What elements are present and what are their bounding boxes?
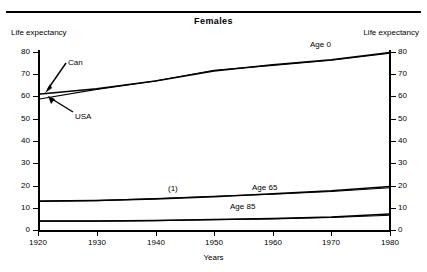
x-label-1980: 1980 — [373, 238, 407, 247]
usa-arrow-head — [48, 96, 55, 104]
x-tick-1950 — [214, 231, 215, 236]
y-tick-right-60 — [390, 96, 396, 97]
y-tick-left-50 — [33, 119, 39, 120]
y-label-left-70: 70 — [12, 69, 30, 78]
series-label-age65: Age 65 — [252, 183, 277, 192]
y-tick-left-40 — [33, 141, 39, 142]
series-line-age-85-can — [38, 214, 390, 221]
series-line-age-0-can — [38, 52, 390, 94]
y-label-left-20: 20 — [12, 181, 30, 190]
chart-figure: Females Life expectancy Life expectancy … — [0, 0, 427, 272]
x-label-1930: 1930 — [80, 238, 114, 247]
y-tick-right-50 — [390, 119, 396, 120]
x-label-1940: 1940 — [139, 238, 173, 247]
x-tick-1940 — [156, 231, 157, 236]
y-tick-right-30 — [390, 163, 396, 164]
y-tick-left-60 — [33, 96, 39, 97]
series-label-age85: Age 85 — [230, 202, 255, 211]
y-tick-left-30 — [33, 163, 39, 164]
y-label-left-50: 50 — [12, 114, 30, 123]
y-tick-right-10 — [390, 208, 396, 209]
y-label-right-70: 70 — [398, 69, 418, 78]
y-label-left-60: 60 — [12, 91, 30, 100]
y-label-right-80: 80 — [398, 47, 418, 56]
footnote-marker: (1) — [168, 184, 178, 193]
series-layer — [38, 52, 390, 221]
x-tick-1970 — [331, 231, 332, 236]
y-label-left-0: 0 — [12, 225, 30, 234]
y-label-right-60: 60 — [398, 91, 418, 100]
y-label-right-50: 50 — [398, 114, 418, 123]
series-label-can: Can — [68, 58, 83, 67]
x-label-1920: 1920 — [21, 238, 55, 247]
series-label-age0: Age 0 — [310, 40, 331, 49]
y-tick-left-10 — [33, 208, 39, 209]
series-label-usa: USA — [75, 112, 91, 121]
x-axis-title: Years — [0, 253, 427, 262]
y-tick-right-40 — [390, 141, 396, 142]
y-label-left-80: 80 — [12, 47, 30, 56]
y-tick-right-20 — [390, 186, 396, 187]
x-tick-1980 — [390, 231, 391, 236]
x-label-1960: 1960 — [256, 238, 290, 247]
top-divider-rule — [6, 11, 421, 13]
y-label-right-0: 0 — [398, 225, 418, 234]
y-label-right-30: 30 — [398, 158, 418, 167]
can-arrow-head — [45, 84, 52, 93]
usa-arrow-line — [52, 99, 73, 112]
x-label-1970: 1970 — [314, 238, 348, 247]
y-tick-right-70 — [390, 74, 396, 75]
y-label-right-10: 10 — [398, 203, 418, 212]
x-label-1950: 1950 — [197, 238, 231, 247]
y-label-left-10: 10 — [12, 203, 30, 212]
y-tick-right-80 — [390, 52, 396, 53]
y-tick-left-20 — [33, 186, 39, 187]
y-tick-left-80 — [33, 52, 39, 53]
series-line-age-65-usa — [38, 188, 390, 202]
can-arrow-line — [48, 63, 66, 89]
right-axis-caption: Life expectancy — [363, 28, 419, 37]
series-line-age-0-usa — [38, 53, 390, 99]
y-label-right-40: 40 — [398, 136, 418, 145]
left-axis-caption: Life expectancy — [11, 28, 67, 37]
x-tick-1930 — [97, 231, 98, 236]
x-tick-1920 — [38, 231, 39, 236]
x-tick-1960 — [273, 231, 274, 236]
y-label-right-20: 20 — [398, 181, 418, 190]
y-label-left-40: 40 — [12, 136, 30, 145]
series-line-age-65-can — [38, 187, 390, 201]
y-tick-left-70 — [33, 74, 39, 75]
page-title: Females — [0, 16, 427, 26]
series-line-age-85-usa — [38, 215, 390, 221]
annotation-arrows — [45, 63, 73, 112]
y-label-left-30: 30 — [12, 158, 30, 167]
